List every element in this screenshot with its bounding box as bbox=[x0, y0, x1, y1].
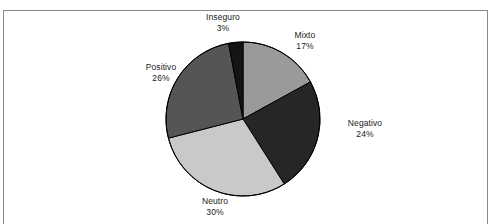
pie-label-negativo: Negativo 24% bbox=[330, 118, 400, 140]
chart-plot-area: Inseguro 3% Mixto 17% Negativo 24% Posit… bbox=[0, 0, 496, 224]
pie-label-mixto-value: 17% bbox=[274, 41, 336, 52]
pie-label-negativo-value: 24% bbox=[330, 129, 400, 140]
pie-label-neutro-name: Neutro bbox=[182, 196, 248, 207]
pie-label-positivo: Positivo 26% bbox=[128, 62, 194, 84]
pie-label-positivo-name: Positivo bbox=[128, 62, 194, 73]
pie-label-mixto: Mixto 17% bbox=[274, 30, 336, 52]
pie-label-inseguro-value: 3% bbox=[186, 23, 260, 34]
pie-label-mixto-name: Mixto bbox=[274, 30, 336, 41]
pie-chart-figure: Inseguro 3% Mixto 17% Negativo 24% Posit… bbox=[0, 0, 496, 224]
pie-label-inseguro-name: Inseguro bbox=[186, 12, 260, 23]
pie-label-positivo-value: 26% bbox=[128, 73, 194, 84]
pie-label-inseguro: Inseguro 3% bbox=[186, 12, 260, 34]
pie-label-negativo-name: Negativo bbox=[330, 118, 400, 129]
pie-label-neutro-value: 30% bbox=[182, 207, 248, 218]
pie-label-neutro: Neutro 30% bbox=[182, 196, 248, 218]
